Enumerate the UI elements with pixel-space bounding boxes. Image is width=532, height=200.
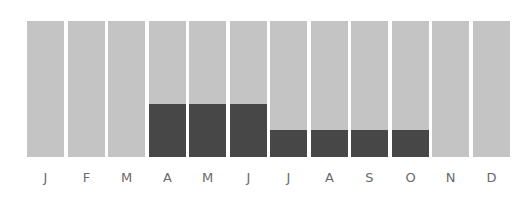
x-axis-tick-label: N: [432, 170, 469, 185]
x-axis-tick-label: O: [392, 170, 429, 185]
bar-month-6: [230, 21, 267, 157]
bar-fill-segment: [230, 104, 267, 157]
bar-fill-segment: [270, 130, 307, 157]
bar-month-1: [27, 21, 64, 157]
bar-month-9: [351, 21, 388, 157]
x-axis-tick-label: M: [189, 170, 226, 185]
x-axis-tick-label: J: [270, 170, 307, 185]
bar-month-3: [108, 21, 145, 157]
x-axis-tick-label: J: [27, 170, 64, 185]
x-axis-tick-label: M: [108, 170, 145, 185]
bar-fill-segment: [392, 130, 429, 157]
bar-month-11: [432, 21, 469, 157]
x-axis-tick-label: J: [230, 170, 267, 185]
bar-fill-segment: [149, 104, 186, 157]
x-axis-tick-label: A: [149, 170, 186, 185]
x-axis-tick-label: D: [473, 170, 510, 185]
bar-fill-segment: [189, 104, 226, 157]
bar-month-2: [68, 21, 105, 157]
bar-month-10: [392, 21, 429, 157]
x-axis-tick-label: A: [311, 170, 348, 185]
bar-month-7: [270, 21, 307, 157]
bar-month-5: [189, 21, 226, 157]
bar-month-4: [149, 21, 186, 157]
bar-fill-segment: [351, 130, 388, 157]
bar-fill-segment: [311, 130, 348, 157]
x-axis-tick-label: F: [68, 170, 105, 185]
monthly-bar-chart: JFMAMJJASOND: [0, 0, 532, 200]
x-axis-tick-label: S: [351, 170, 388, 185]
bar-month-12: [473, 21, 510, 157]
bar-month-8: [311, 21, 348, 157]
